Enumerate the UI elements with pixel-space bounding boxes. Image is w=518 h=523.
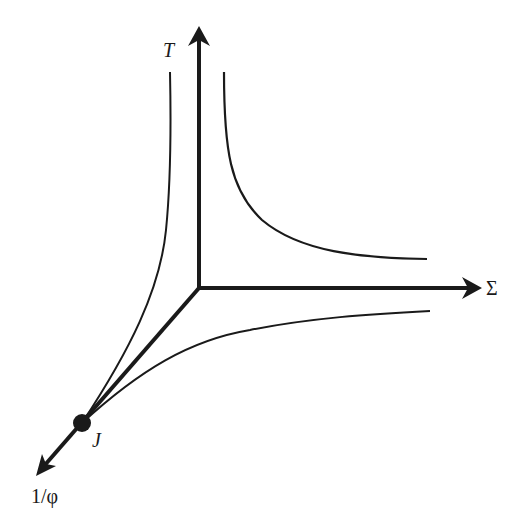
diagram-canvas xyxy=(0,0,518,523)
t-axis-label: T xyxy=(163,40,174,60)
curve-sigma-phi xyxy=(82,311,430,423)
point-j-label: J xyxy=(92,430,101,450)
inverse-phi-axis xyxy=(44,288,199,466)
curve-t-sigma xyxy=(224,72,427,259)
sigma-axis-label: Σ xyxy=(486,278,498,298)
inverse-phi-axis-label: 1/φ xyxy=(31,486,58,506)
point-j-marker xyxy=(73,414,91,432)
